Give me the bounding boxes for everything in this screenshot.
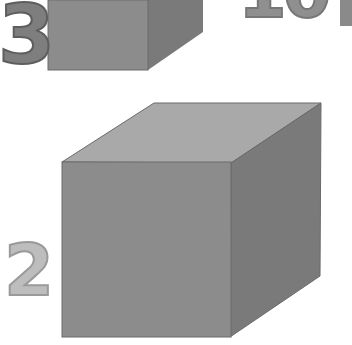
worksheet-scene: 3 10 2 (0, 0, 352, 345)
number-label-3: 3 (0, 0, 55, 76)
large-cube (62, 103, 321, 337)
cut-off-cube-edge (340, 0, 352, 26)
small-cube-front-face (48, 0, 148, 70)
number-label-10: 10 (238, 0, 327, 28)
large-cube-front-face (62, 162, 231, 337)
small-cube (48, 0, 203, 70)
number-label-2: 2 (4, 234, 54, 306)
small-cube-side-face (148, 0, 203, 70)
